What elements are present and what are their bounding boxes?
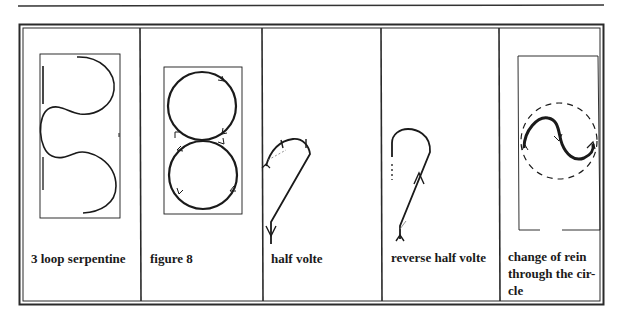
- figure-label-figure-8: figure 8: [150, 250, 193, 267]
- label-line: cle: [508, 282, 595, 299]
- top-rule-line: [18, 5, 604, 6]
- s-curve-path: [524, 118, 593, 159]
- change-of-rein-figure: [518, 56, 600, 230]
- column-divider: [262, 28, 263, 301]
- column-divider: [140, 28, 141, 301]
- figure-8-figure: [164, 67, 242, 214]
- lower-circle: [169, 141, 237, 209]
- label-line: change of rein: [508, 248, 595, 265]
- direction-arrow: [175, 132, 180, 138]
- figure-label-change-of-rein: change of rein through the cir- cle: [508, 248, 595, 299]
- direction-arrow: [177, 188, 183, 194]
- figure-label-reverse-half-volte: reverse half volte: [391, 249, 486, 266]
- reverse-half-volte-path: [392, 129, 430, 239]
- upper-circle: [168, 72, 236, 140]
- three-loop-serpentine-figure: [40, 54, 120, 218]
- half-volte-figure: [262, 139, 310, 244]
- reverse-half-volte-figure: [392, 129, 430, 241]
- direction-tick: [281, 140, 283, 148]
- figure-label-half-volte: half volte: [271, 250, 323, 267]
- arena-rect: [518, 56, 600, 230]
- serpentine-path: [40, 57, 116, 213]
- direction-arrow: [218, 138, 224, 144]
- half-volte-path: [266, 139, 310, 244]
- figure-label-three-loop-serpentine: 3 loop serpentine: [31, 250, 126, 267]
- arena-rect: [40, 54, 120, 218]
- column-divider: [499, 28, 500, 301]
- label-line: through the cir-: [508, 265, 595, 282]
- column-divider: [381, 28, 382, 301]
